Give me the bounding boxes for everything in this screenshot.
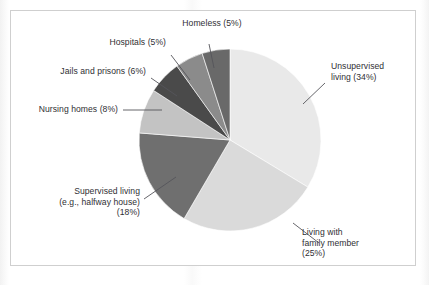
pie-label-unsupervised-living: Unsupervised living (34%) [331, 61, 423, 82]
pie-label-hospitals: Hospitals (5%) [52, 37, 166, 48]
pie-slice-group [139, 49, 321, 231]
pie-label-living-with-family-member: Living with family member (25%) [302, 227, 412, 259]
pie-chart-figure: Unsupervised living (34%) Living with fa… [0, 0, 429, 285]
pie-label-nursing-homes: Nursing homes (8%) [10, 104, 118, 115]
pie-label-homeless: Homeless (5%) [160, 18, 264, 29]
pie-label-jails-and-prisons: Jails and prisons (6%) [14, 66, 146, 77]
pie-label-supervised-living: Supervised living (e.g., halfway house) … [14, 186, 140, 218]
